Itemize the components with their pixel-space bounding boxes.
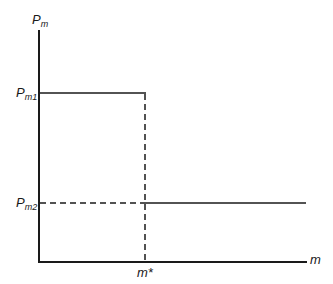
y-axis-label: Pm: [32, 13, 48, 29]
x-tick-m-star: m*: [137, 266, 153, 279]
x-axis-label: m: [310, 253, 321, 266]
y-tick-pm1-sub: m1: [25, 92, 38, 102]
y-tick-pm1-base: P: [16, 85, 25, 100]
y-axis-label-sub: m: [41, 19, 49, 29]
y-tick-pm1: Pm1: [16, 86, 37, 102]
step-chart: [0, 0, 333, 284]
y-tick-pm2-base: P: [16, 195, 25, 210]
y-axis-label-base: P: [32, 12, 41, 27]
y-tick-pm2: Pm2: [16, 196, 37, 212]
y-tick-pm2-sub: m2: [25, 202, 38, 212]
